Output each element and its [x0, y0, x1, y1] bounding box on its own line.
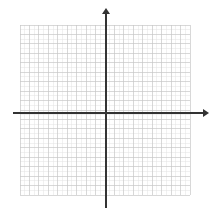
- coordinate-grid-figure: [0, 0, 212, 220]
- coordinate-plane: [0, 0, 212, 220]
